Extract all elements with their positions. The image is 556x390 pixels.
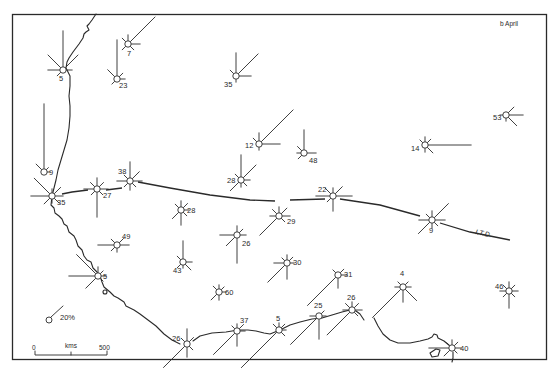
wind-rose-station: 12 — [245, 110, 293, 150]
wind-direction-ray — [298, 147, 302, 151]
wind-rose-station: 35 — [224, 53, 258, 89]
wind-rose-station: 46 — [495, 282, 518, 308]
wind-direction-ray — [108, 70, 115, 77]
station-hub-icon — [503, 112, 509, 118]
wind-direction-ray — [298, 155, 302, 159]
station-hub-icon — [94, 186, 100, 192]
wind-direction-ray — [426, 214, 430, 218]
wind-direction-ray — [175, 204, 179, 208]
station-calm-label: 5 — [276, 314, 280, 323]
station-hub-icon — [178, 207, 184, 213]
wind-rose-station: 28 — [172, 201, 195, 225]
station-calm-label: 35 — [224, 80, 232, 89]
wind-direction-ray — [86, 278, 96, 288]
station-calm-label: 37 — [240, 316, 248, 325]
wind-direction-ray — [54, 187, 60, 193]
wind-direction-ray — [333, 270, 336, 273]
wind-direction-ray — [503, 285, 507, 289]
wind-rose-station: 48 — [297, 130, 318, 165]
coastline-east — [374, 318, 453, 362]
station-calm-label: 49 — [122, 232, 130, 241]
legend: 20% — [46, 306, 75, 323]
station-calm-label: 28 — [227, 176, 235, 185]
station-hub-icon — [276, 327, 282, 333]
wind-direction-ray — [373, 289, 401, 317]
wind-direction-ray — [213, 286, 217, 290]
wind-direction-ray — [243, 182, 247, 186]
wind-direction-ray — [77, 255, 96, 274]
station-calm-label: 48 — [309, 156, 317, 165]
wind-direction-ray — [130, 17, 155, 42]
station-hub-icon — [284, 260, 290, 266]
legend-hub-icon — [46, 317, 52, 323]
bioko-island — [430, 349, 440, 357]
wind-direction-ray — [291, 318, 317, 344]
wind-direction-ray — [261, 110, 293, 142]
station-hub-icon — [49, 193, 55, 199]
scale-bar-line — [35, 351, 107, 355]
wind-direction-ray — [434, 204, 448, 218]
wind-rose-station: 53 — [493, 107, 523, 126]
coast-island — [103, 290, 107, 294]
wind-direction-ray — [221, 287, 224, 290]
wind-direction-ray — [511, 285, 515, 289]
wind-rose-station: 9 — [418, 204, 448, 235]
station-hub-icon — [180, 259, 186, 265]
station-hub-icon — [233, 73, 239, 79]
legend-label: 20% — [60, 313, 75, 322]
station-hub-icon — [60, 67, 66, 73]
wind-direction-ray — [91, 191, 95, 195]
wind-direction-ray — [511, 293, 515, 297]
station-calm-label: 5 — [59, 74, 63, 83]
wind-rose-station: 29 — [260, 207, 296, 235]
wind-direction-ray — [132, 183, 136, 187]
station-hub-icon — [216, 289, 222, 295]
station-hub-icon — [429, 217, 435, 223]
wind-direction-ray — [132, 172, 139, 179]
station-calm-label: 60 — [225, 288, 233, 297]
wind-rose-station: 26 — [164, 329, 194, 368]
station-hub-icon — [95, 273, 101, 279]
station-calm-label: 12 — [245, 141, 253, 150]
station-calm-label: 26 — [172, 334, 180, 343]
station-calm-label: 9 — [429, 226, 433, 235]
wind-direction-ray — [281, 218, 285, 222]
wind-direction-ray — [281, 208, 287, 214]
station-hub-icon — [127, 178, 133, 184]
wind-rose-station: 43 — [173, 241, 192, 275]
wind-direction-ray — [282, 258, 285, 261]
panel-label: b April — [500, 20, 519, 28]
wind-rose-station: 5 — [69, 255, 107, 289]
station-calm-label: 30 — [293, 258, 301, 267]
wind-rose-station: 14 — [411, 137, 471, 153]
station-hub-icon — [234, 232, 240, 238]
wind-direction-ray — [111, 247, 115, 251]
station-hub-icon — [114, 242, 120, 248]
wind-rose-station: 37 — [214, 316, 249, 355]
wind-direction-ray — [226, 237, 234, 245]
station-hub-icon — [41, 169, 47, 175]
station-calm-label: 26 — [347, 293, 355, 302]
station-hub-icon — [400, 284, 406, 290]
station-hub-icon — [276, 213, 282, 219]
station-hub-icon — [422, 142, 428, 148]
wind-direction-ray — [44, 198, 50, 204]
station-hub-icon — [349, 307, 355, 313]
wind-direction-ray — [281, 324, 285, 328]
wind-rose-station: 27 — [84, 178, 112, 217]
wind-direction-ray — [185, 264, 191, 270]
wind-direction-ray — [177, 256, 181, 260]
wind-direction-ray — [122, 46, 126, 50]
wind-direction-ray — [335, 187, 342, 194]
station-calm-label: 43 — [173, 266, 181, 275]
station-calm-label: 14 — [411, 144, 419, 153]
station-hub-icon — [238, 177, 244, 183]
station-calm-label: 46 — [495, 282, 503, 291]
station-calm-label: 22 — [318, 185, 326, 194]
wind-rose-station: 38 — [117, 162, 142, 190]
wind-direction-ray — [181, 338, 185, 342]
wind-direction-ray — [273, 210, 277, 214]
wind-direction-ray — [99, 183, 103, 187]
wind-direction-ray — [354, 304, 358, 308]
wind-direction-ray — [111, 239, 115, 243]
